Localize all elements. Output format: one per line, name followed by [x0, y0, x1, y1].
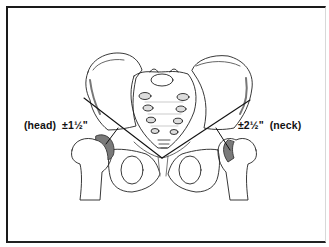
- head-label-name: (head): [24, 119, 56, 131]
- head-label-measurement: ±1½": [62, 119, 88, 131]
- neck-label-name: (neck): [270, 119, 302, 131]
- left-pubis: [109, 149, 161, 192]
- neck-label: ±2½"(neck): [238, 119, 301, 131]
- right-femoral-neck-shade: [224, 140, 235, 162]
- head-label: (head)±1½": [24, 119, 88, 131]
- left-femoral-head-shade: [96, 135, 114, 160]
- left-obturator-foramen: [121, 156, 143, 184]
- right-obturator-foramen: [179, 156, 201, 184]
- left-ilium: [86, 53, 142, 130]
- right-pubis: [168, 149, 220, 192]
- neck-label-measurement: ±2½": [238, 119, 264, 131]
